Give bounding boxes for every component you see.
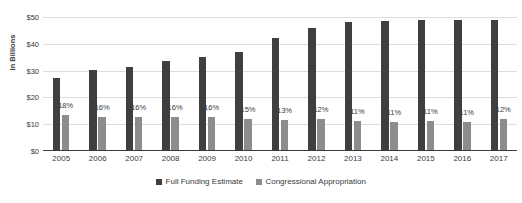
y-axis-tick-label: $50 — [26, 13, 39, 22]
bar-full-funding-estimate — [381, 21, 389, 151]
bar-congressional-appropriation — [500, 119, 508, 151]
bar-group: 11% — [408, 17, 444, 151]
x-axis-tick-label: 2008 — [152, 154, 188, 163]
x-axis-tick-label: 2017 — [481, 154, 517, 163]
bar-congressional-appropriation — [354, 121, 362, 151]
y-axis-tick-label: $30 — [26, 66, 39, 75]
bar-group: 16% — [152, 17, 188, 151]
bar-group: 12% — [298, 17, 334, 151]
plot-area: $0$10$20$30$40$50 18%16%16%16%16%15%13%1… — [43, 17, 517, 151]
x-axis-tick-label: 2007 — [116, 154, 152, 163]
bar-percent-label: 18% — [58, 101, 74, 110]
x-axis-tick-label: 2011 — [262, 154, 298, 163]
bar-percent-label: 11% — [459, 108, 475, 117]
legend-swatch-icon — [256, 179, 262, 185]
bar-percent-label: 12% — [496, 105, 512, 114]
bar-percent-label: 16% — [167, 103, 183, 112]
bar-full-funding-estimate — [272, 38, 280, 151]
legend-label: Congressional Appropriation — [265, 177, 366, 186]
bar-percent-label: 11% — [423, 107, 439, 116]
bar-percent-label: 16% — [94, 103, 110, 112]
bar-group: 11% — [335, 17, 371, 151]
bar-group: 16% — [116, 17, 152, 151]
bar-percent-label: 16% — [131, 103, 147, 112]
bar-group: 16% — [189, 17, 225, 151]
bar-group: 18% — [43, 17, 79, 151]
x-axis-tick-label: 2013 — [335, 154, 371, 163]
x-axis-tick-label: 2006 — [79, 154, 115, 163]
y-axis-tick-label: $40 — [26, 39, 39, 48]
bar-congressional-appropriation — [463, 122, 471, 151]
bar-congressional-appropriation — [135, 117, 143, 151]
x-axis-tick-label: 2016 — [444, 154, 480, 163]
chart-legend: Full Funding EstimateCongressional Appro… — [0, 177, 522, 186]
legend-label: Full Funding Estimate — [166, 177, 243, 186]
legend-swatch-icon — [156, 179, 162, 185]
bar-percent-label: 11% — [350, 107, 366, 116]
legend-item[interactable]: Full Funding Estimate — [156, 177, 243, 186]
x-axis-tick-label: 2010 — [225, 154, 261, 163]
axis-baseline — [43, 150, 517, 151]
bars-layer: 18%16%16%16%16%15%13%12%11%11%11%11%12% — [43, 17, 517, 151]
bar-congressional-appropriation — [62, 115, 70, 151]
bar-full-funding-estimate — [345, 22, 353, 151]
bar-full-funding-estimate — [235, 52, 243, 151]
bar-group: 11% — [371, 17, 407, 151]
x-axis-tick-label: 2012 — [298, 154, 334, 163]
y-axis-tick-label: $0 — [31, 147, 39, 156]
bar-full-funding-estimate — [454, 20, 462, 151]
bar-congressional-appropriation — [244, 119, 252, 151]
bar-percent-label: 15% — [240, 105, 256, 114]
bar-congressional-appropriation — [171, 117, 179, 151]
bar-percent-label: 13% — [277, 106, 293, 115]
bar-group: 12% — [481, 17, 517, 151]
x-axis-tick-label: 2015 — [408, 154, 444, 163]
y-axis-tick-label: $20 — [26, 93, 39, 102]
y-axis-tick-label: $10 — [26, 120, 39, 129]
bar-percent-label: 12% — [313, 105, 329, 114]
bar-full-funding-estimate — [53, 78, 61, 151]
bar-percent-label: 11% — [386, 108, 402, 117]
bar-group: 11% — [444, 17, 480, 151]
x-axis-tick-label: 2009 — [189, 154, 225, 163]
x-axis-tick-label: 2005 — [43, 154, 79, 163]
bar-full-funding-estimate — [308, 28, 316, 151]
bar-group: 13% — [262, 17, 298, 151]
bar-full-funding-estimate — [491, 20, 499, 151]
x-axis-tick-label: 2014 — [371, 154, 407, 163]
bar-congressional-appropriation — [427, 121, 435, 151]
bar-group: 16% — [79, 17, 115, 151]
bar-congressional-appropriation — [281, 120, 289, 151]
bar-chart: In Billions $0$10$20$30$40$50 18%16%16%1… — [0, 0, 522, 203]
bar-congressional-appropriation — [98, 117, 106, 151]
bar-percent-label: 16% — [204, 103, 220, 112]
bar-group: 15% — [225, 17, 261, 151]
bar-congressional-appropriation — [317, 119, 325, 151]
x-axis: 2005200620072008200920102011201220132014… — [43, 152, 517, 168]
bar-congressional-appropriation — [390, 122, 398, 151]
bar-full-funding-estimate — [418, 20, 426, 151]
legend-item[interactable]: Congressional Appropriation — [256, 177, 366, 186]
y-axis-title: In Billions — [8, 13, 17, 93]
bar-congressional-appropriation — [208, 117, 216, 151]
